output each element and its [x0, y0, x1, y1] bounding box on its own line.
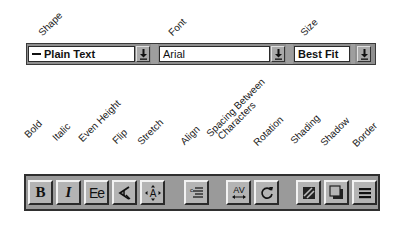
stretch-button[interactable]: A [140, 180, 165, 205]
shape-dropdown-button[interactable] [136, 46, 150, 62]
align-label-text: Align [178, 123, 202, 147]
shape-value: Plain Text [44, 48, 95, 60]
shape-label: Shape [37, 10, 65, 38]
shading-button[interactable] [296, 180, 321, 205]
rotation-icon [259, 185, 275, 201]
svg-text:AV: AV [233, 185, 244, 195]
size-combobox[interactable]: Best Fit [294, 46, 350, 62]
rotation-button[interactable] [254, 180, 279, 205]
straight-line-shape-icon [32, 53, 41, 55]
font-label-text: Font [166, 16, 188, 38]
shading-icon [302, 186, 316, 200]
character-spacing-icon: AV [230, 184, 248, 202]
even-height-button[interactable]: Ee [84, 180, 109, 205]
stretch-icon: A [144, 184, 162, 202]
flip-icon [117, 185, 133, 201]
font-value: Arial [163, 48, 185, 60]
border-button[interactable] [352, 180, 377, 205]
italic-button[interactable]: I [56, 180, 81, 205]
toolbar-separator [351, 44, 355, 64]
bold-label: Bold [23, 119, 44, 140]
down-arrow-icon [139, 49, 148, 60]
rotation-label-text: Rotation [251, 114, 285, 148]
svg-text:c: c [190, 187, 193, 193]
shading-label-text: Shading [288, 112, 322, 146]
toolbar-separator [151, 44, 158, 64]
wordart-format-bar: Plain Text Arial Best Fit [26, 43, 376, 65]
toolbar-separator [286, 44, 293, 64]
shadow-label-text: Shadow [318, 115, 351, 148]
font-combobox[interactable]: Arial [159, 46, 270, 62]
stretch-label-text: Stretch [135, 117, 165, 147]
shadow-button[interactable] [324, 180, 349, 205]
bold-icon: B [35, 184, 45, 201]
flip-label: Flip [111, 128, 129, 146]
align-button[interactable]: c [184, 180, 209, 205]
bold-button[interactable]: B [28, 180, 53, 205]
flip-button[interactable] [112, 180, 137, 205]
shape-combobox[interactable]: Plain Text [28, 46, 135, 62]
border-icon [358, 186, 372, 200]
size-label: Size [299, 17, 320, 38]
down-arrow-icon [360, 49, 369, 60]
wordart-effects-toolbar: B I Ee A c AV [24, 174, 380, 211]
border-label-text: Border [350, 120, 379, 149]
shadow-label: Shadow [319, 115, 352, 148]
size-label-text: Size [298, 16, 320, 38]
italic-icon: I [66, 184, 72, 201]
align-icon: c [189, 185, 205, 201]
even-height-icon: Ee [89, 185, 104, 201]
down-arrow-icon [274, 49, 283, 60]
bold-label-text: Bold [22, 118, 44, 140]
svg-text:A: A [149, 188, 156, 199]
spacing-label-line1: Spacing Between [204, 76, 267, 139]
italic-label-text: Italic [50, 121, 72, 143]
border-label: Border [351, 121, 379, 149]
shape-label-text: Shape [36, 10, 64, 38]
character-spacing-button[interactable]: AV [226, 180, 251, 205]
align-label: Align [179, 124, 202, 147]
size-dropdown-button[interactable] [357, 46, 371, 62]
font-dropdown-button[interactable] [271, 46, 285, 62]
size-value: Best Fit [298, 48, 338, 60]
font-label: Font [167, 17, 188, 38]
italic-label: Italic [51, 121, 73, 143]
flip-label-text: Flip [110, 127, 129, 146]
shading-label: Shading [289, 113, 322, 146]
shadow-icon [329, 185, 344, 200]
stretch-label: Stretch [136, 118, 165, 147]
rotation-label: Rotation [252, 115, 285, 148]
